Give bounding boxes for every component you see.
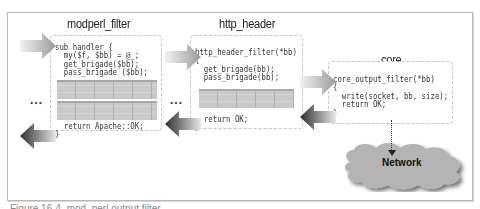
network-connector-line — [391, 120, 392, 152]
arrow-right-icon — [300, 69, 336, 95]
bucket-brigade-1 — [57, 80, 157, 99]
ellipsis-1: ... — [30, 93, 43, 107]
arrow-right-icon — [165, 44, 201, 70]
http-header-code-bottom: return OK; } — [195, 116, 248, 133]
arrow-left-icon — [165, 111, 201, 137]
core-code: core_output_filter(*bb) { write(socket, … — [333, 76, 448, 118]
bucket-brigade-2 — [57, 101, 157, 120]
arrow-right-icon — [20, 33, 56, 59]
http-header-code-top: http_header_filter(*bb) { get_brigade(bb… — [195, 49, 297, 83]
network-label: Network — [382, 157, 421, 168]
arrow-left-icon — [300, 104, 336, 130]
modperl-filter-code-bottom: return Apache::OK; } — [55, 123, 144, 140]
bucket-brigade-3 — [199, 89, 294, 108]
figure-caption: Figure 16-4. mod_perl output filter — [10, 203, 161, 209]
modperl-filter-title: modperl_filter — [67, 16, 130, 31]
http-header-title: http_header — [219, 16, 275, 31]
down-arrow-icon — [388, 150, 396, 156]
modperl-filter-code-top: sub handler { my($f, $bb) = @_; get_brig… — [55, 44, 148, 78]
arrow-left-icon — [20, 123, 56, 149]
ellipsis-2: ... — [170, 93, 183, 107]
